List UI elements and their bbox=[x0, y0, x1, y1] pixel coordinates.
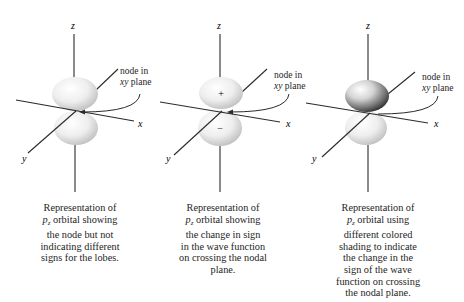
panel-signs-pz: + − z x y node in xy plane Representatio… bbox=[150, 0, 305, 302]
z-axis-label: z bbox=[216, 20, 221, 31]
minus-sign: − bbox=[217, 123, 223, 134]
panel-plain-pz: z x y node in xy plane Representation of… bbox=[0, 0, 155, 302]
y-axis-label: y bbox=[21, 153, 27, 164]
node-label: node in xy plane bbox=[422, 72, 453, 94]
z-axis-label: z bbox=[70, 20, 75, 31]
y-axis-label: y bbox=[165, 153, 171, 164]
x-axis-label: x bbox=[433, 118, 439, 129]
caption: Representation of pz orbital showing the… bbox=[26, 202, 134, 264]
caption: Representation of pz orbital using diffe… bbox=[318, 202, 438, 299]
orbital-diagram-shaded: z x y bbox=[300, 0, 464, 210]
z-axis-label: z bbox=[365, 20, 370, 31]
x-axis-label: x bbox=[137, 118, 143, 129]
orbital-diagram-plain: z x y bbox=[0, 0, 155, 210]
node-label: node in xy plane bbox=[120, 66, 151, 88]
top-lobe bbox=[52, 77, 98, 111]
plus-sign: + bbox=[218, 88, 224, 99]
x-axis-label: x bbox=[285, 118, 291, 129]
panel-shaded-pz: z x y node in xy plane Representation of… bbox=[300, 0, 464, 302]
top-lobe-dark bbox=[345, 80, 389, 112]
y-axis-label: y bbox=[311, 153, 317, 164]
caption: Representation of pz orbital showing the… bbox=[164, 202, 282, 276]
bottom-lobe bbox=[54, 111, 98, 145]
orbital-diagram-signs: + − z x y bbox=[150, 0, 305, 210]
